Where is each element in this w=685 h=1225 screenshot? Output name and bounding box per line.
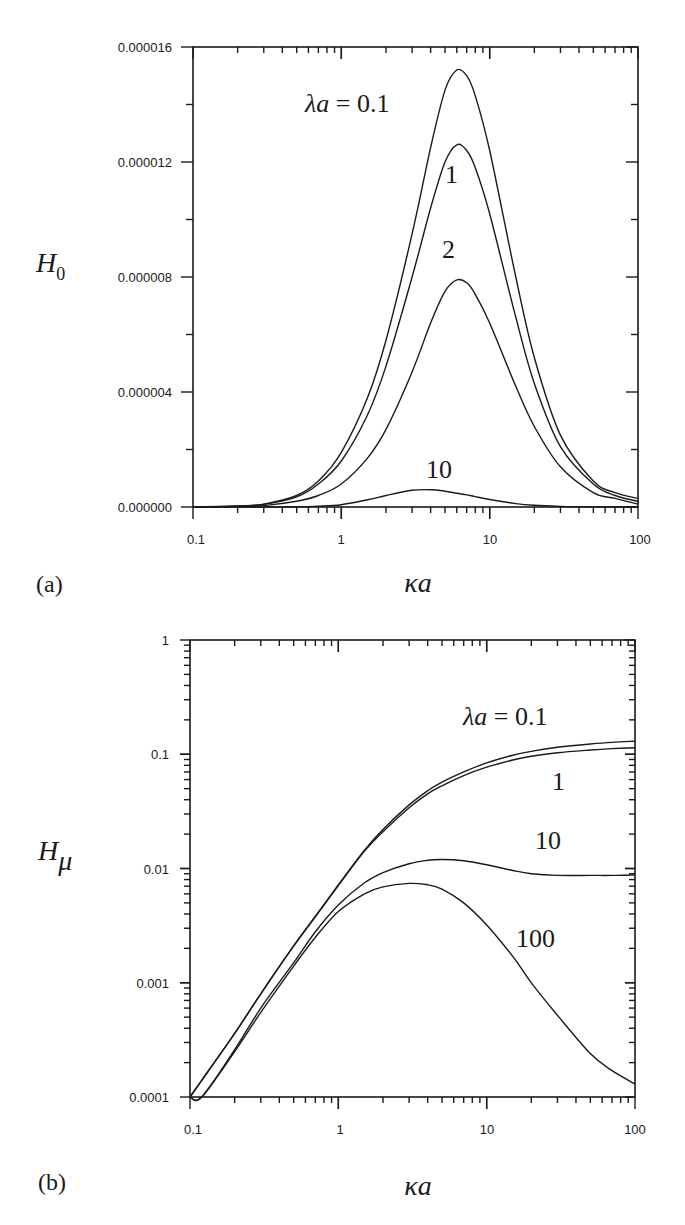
curve-label-lambda-1: 1 (445, 160, 458, 189)
x-tick-label: 10 (480, 1122, 494, 1137)
figure: 0.000016 0.000012 0.000008 0.000004 0.00… (0, 0, 685, 1225)
curve--a-2 (193, 279, 638, 507)
curve-label-lambda-0.1: λa = 0.1 (304, 89, 389, 118)
panel-label-b: (b) (38, 1169, 66, 1195)
y-tick-label: 0.000008 (118, 270, 172, 285)
y-tick-label: 0.000000 (118, 500, 172, 515)
curve-label-lambda-10: 10 (535, 826, 561, 855)
y-tick-label: 0.0001 (129, 1090, 169, 1105)
x-tick-label: 1 (337, 532, 344, 547)
y-tick-label: 1 (162, 633, 169, 648)
y-axis-title-a: H0 (35, 247, 65, 284)
x-axis-title-a: κa (404, 567, 431, 598)
curve-label-lambda-10: 10 (426, 455, 452, 484)
axis-ticks-b (180, 640, 635, 1109)
y-tick-label: 0.001 (136, 976, 169, 991)
curve--a-0.1 (190, 741, 635, 1097)
x-tick-label: 100 (624, 1122, 646, 1137)
curves-b (190, 741, 635, 1100)
curve-label-lambda-2: 2 (442, 235, 455, 264)
x-tick-label: 0.1 (187, 532, 205, 547)
y-axis-title-b: Hμ (37, 835, 72, 876)
chart-b: 1 0.1 0.01 0.001 0.0001 0.1 1 10 100 Hμ … (37, 633, 646, 1201)
curve--a-0.1 (193, 69, 638, 507)
curve--a-100 (190, 883, 635, 1100)
curve--a-1 (190, 748, 635, 1097)
curves-a (193, 69, 638, 507)
plot-frame-a (193, 47, 638, 507)
axis-ticks-a (181, 47, 638, 519)
x-tick-label: 10 (483, 532, 497, 547)
x-tick-label: 100 (629, 532, 651, 547)
x-axis-title-b: κa (404, 1170, 431, 1201)
x-tick-label: 0.1 (184, 1122, 202, 1137)
y-tick-label: 0.000004 (118, 385, 172, 400)
curve-label-lambda-0.1: λa = 0.1 (462, 702, 547, 731)
y-tick-label: 0.000016 (118, 40, 172, 55)
x-tick-label: 1 (336, 1122, 343, 1137)
y-tick-label: 0.01 (144, 862, 169, 877)
curve-label-lambda-100: 100 (516, 924, 555, 953)
panel-label-a: (a) (36, 571, 63, 597)
y-tick-label: 0.000012 (118, 155, 172, 170)
curve--a-10 (190, 859, 635, 1100)
y-tick-label: 0.1 (151, 747, 169, 762)
curve-label-lambda-1: 1 (552, 767, 565, 796)
chart-a: 0.000016 0.000012 0.000008 0.000004 0.00… (35, 40, 651, 598)
